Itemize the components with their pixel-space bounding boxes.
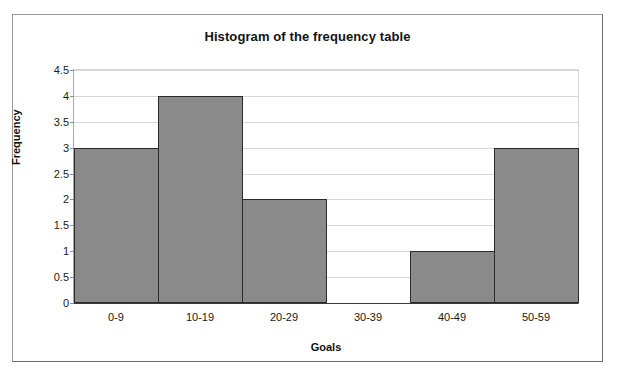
y-tick-label: 1 <box>63 245 69 257</box>
y-tick-label: 0.5 <box>54 271 69 283</box>
y-axis-title: Frequency <box>10 109 22 165</box>
chart-figure-frame: Histogram of the frequency table Frequen… <box>12 14 603 362</box>
x-tick-label: 30-39 <box>326 311 410 323</box>
x-tick-label: 10-19 <box>158 311 242 323</box>
y-tick-label: 3 <box>63 142 69 154</box>
y-tick-label: 4.5 <box>54 64 69 76</box>
histogram-bar <box>494 148 579 303</box>
x-tick-label: 20-29 <box>242 311 326 323</box>
plot-area: 00.511.522.533.544.5 0-910-1920-2930-394… <box>73 69 579 304</box>
bar-series <box>74 70 578 303</box>
y-tick-mark <box>70 303 74 304</box>
y-tick-label: 2 <box>63 193 69 205</box>
x-tick-label: 50-59 <box>494 311 578 323</box>
x-axis-title: Goals <box>73 341 579 353</box>
x-tick-label: 0-9 <box>74 311 158 323</box>
y-tick-label: 2.5 <box>54 168 69 180</box>
y-tick-label: 4 <box>63 90 69 102</box>
y-tick-label: 1.5 <box>54 219 69 231</box>
histogram-bar <box>242 199 327 303</box>
histogram-bar <box>158 96 243 303</box>
histogram-bar <box>74 148 159 303</box>
y-tick-label: 0 <box>63 297 69 309</box>
x-tick-label: 40-49 <box>410 311 494 323</box>
chart-title: Histogram of the frequency table <box>13 29 602 44</box>
y-tick-label: 3.5 <box>54 116 69 128</box>
screenshot-root: Histogram of the frequency table Frequen… <box>0 0 617 377</box>
histogram-bar <box>410 251 495 303</box>
